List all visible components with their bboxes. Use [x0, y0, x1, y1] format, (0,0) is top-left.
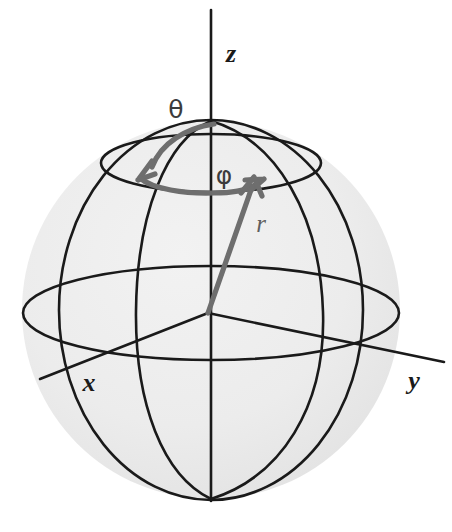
y-axis-label: y — [405, 366, 420, 395]
spherical-coordinate-diagram: z x y θ φ r — [0, 0, 452, 532]
r-vector-label: r — [256, 210, 266, 237]
z-axis-label: z — [225, 39, 237, 68]
diagram-canvas: z x y θ φ r — [0, 0, 452, 532]
theta-angle-label: θ — [168, 95, 183, 124]
x-axis-label: x — [82, 368, 96, 397]
phi-angle-label: φ — [216, 161, 233, 190]
